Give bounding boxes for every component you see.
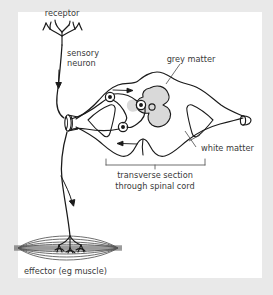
interneuron-arrow-right (113, 88, 133, 93)
motor-end-plates (55, 236, 85, 253)
motor-cell-body (118, 122, 127, 131)
receptor-label: receptor (45, 8, 80, 18)
receptor-dendrites (43, 20, 82, 45)
sensory-direction-arrow (56, 70, 62, 89)
motor-arrow-left (117, 141, 137, 146)
section-caption-line1: transverse section (117, 170, 193, 180)
motor-pathway (61, 128, 119, 236)
section-caption-line2: through spinal cord (115, 181, 195, 191)
sensory-neuron-label-line1: sensory (67, 48, 99, 58)
sensory-neuron-label-line2: neuron (67, 58, 96, 68)
reflex-arc-figure: receptor sensory neuron grey matter whit… (0, 0, 273, 295)
relay-cell-body (136, 100, 145, 109)
grey-matter-label: grey matter (167, 54, 216, 64)
white-matter-label: white matter (201, 143, 254, 153)
section-bracket (106, 159, 205, 169)
ventral-fissure (142, 139, 143, 155)
reflex-arc-diagram: receptor sensory neuron grey matter whit… (0, 0, 273, 295)
effector-label: effector (eg muscle) (24, 266, 107, 276)
